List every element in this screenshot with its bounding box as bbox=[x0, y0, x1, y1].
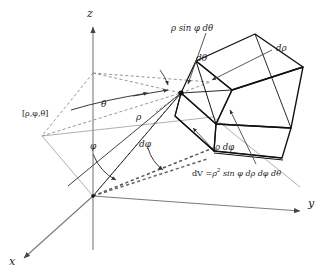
d-theta-label: dθ bbox=[196, 54, 207, 63]
x-axis bbox=[24, 196, 93, 258]
lower-outer-face bbox=[214, 124, 291, 158]
y-axis bbox=[93, 196, 300, 211]
rho-sin-phi-d-theta-label: ρ sin φ dθ bbox=[171, 24, 213, 33]
d-rho-label: dρ bbox=[276, 44, 286, 53]
phi-arc bbox=[93, 154, 116, 180]
dv-formula-rest: sin φ dρ dφ dθ bbox=[223, 169, 281, 178]
theta-arc-secondary bbox=[133, 90, 168, 96]
d-phi-label: dφ bbox=[139, 140, 151, 149]
theta-angle-label: θ bbox=[101, 100, 106, 109]
dv-formula-lhs: dV = bbox=[192, 169, 212, 178]
dv-formula-label: dV =ρ2 sin φ dρ dφ dθ bbox=[192, 168, 281, 178]
spherical-coordinates-diagram bbox=[0, 0, 326, 275]
d-theta-arc bbox=[160, 70, 168, 85]
rho-radial-group bbox=[68, 90, 184, 197]
top-face bbox=[196, 34, 303, 90]
z-axis-label: z bbox=[87, 8, 93, 19]
origin-point bbox=[91, 194, 95, 198]
dashed-cone-upper2 bbox=[93, 73, 210, 82]
x-axis-label: x bbox=[9, 256, 15, 267]
d-phi-arc bbox=[148, 148, 163, 170]
y-axis-label: y bbox=[308, 198, 314, 209]
outer-face bbox=[216, 67, 303, 128]
leader-d-rho bbox=[212, 50, 272, 80]
phi-angle-label: φ bbox=[90, 142, 96, 151]
dashed-cone-left bbox=[42, 73, 93, 136]
axis-group bbox=[24, 27, 300, 258]
point-label-leader bbox=[68, 93, 181, 186]
figure-canvas: z y x θ φ dθ dφ ρ [ρ,φ,θ] ρ sin φ dθ dρ … bbox=[0, 0, 326, 275]
dashed-ray-phi-2 bbox=[93, 159, 207, 196]
rho-d-phi-label: ρ dφ bbox=[215, 143, 234, 152]
point-coordinates-label: [ρ,φ,θ] bbox=[22, 110, 48, 118]
leader-rho-d-phi bbox=[193, 128, 212, 148]
dv-formula-exponent: 2 bbox=[217, 167, 220, 173]
rho-label: ρ bbox=[136, 113, 141, 122]
